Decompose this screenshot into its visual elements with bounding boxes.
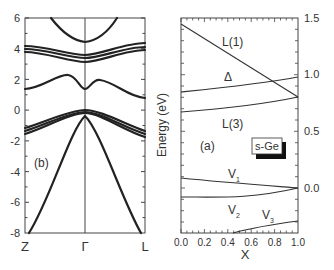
label-l1: L(1) — [222, 35, 243, 49]
label-v1: V 1 — [228, 167, 240, 183]
tick-label: 0.0 — [304, 182, 319, 194]
label-v3: V 3 — [262, 208, 274, 224]
tick-label: -6 — [10, 196, 20, 208]
sge-label-box: s-Ge — [252, 138, 286, 159]
svg-text:V: V — [262, 208, 270, 222]
line-v2 — [181, 188, 298, 197]
label-v2: V 2 — [228, 203, 240, 219]
tick-label: -2 — [10, 135, 20, 147]
panel-b-y-tick-labels: 6 4 2 0 -2 -4 -6 -8 — [10, 12, 20, 239]
label-l3: L(3) — [222, 117, 243, 131]
tick-label: -4 — [10, 166, 20, 178]
line-l3 — [181, 97, 298, 112]
tick-label: 1.0 — [304, 68, 319, 80]
tick-label: -8 — [10, 227, 20, 239]
line-delta — [181, 77, 298, 92]
tick-label: 0.8 — [268, 237, 282, 248]
sge-label: s-Ge — [255, 140, 279, 152]
tick-label: 1.0 — [291, 237, 305, 248]
x-label-z: Z — [21, 239, 29, 254]
tick-label: 0.5 — [304, 125, 319, 137]
y-axis-label: Energy (eV) — [155, 93, 169, 157]
panel-b: 6 4 2 0 -2 -4 -6 -8 Z Γ L (b) — [10, 12, 148, 254]
panel-a-y-tick-labels: 1.5 1.0 0.5 0.0 — [304, 12, 319, 194]
svg-text:3: 3 — [270, 217, 274, 224]
x-label-gamma: Γ — [81, 239, 88, 254]
tick-label: 0 — [14, 104, 20, 116]
svg-text:V: V — [228, 203, 236, 217]
svg-text:2: 2 — [236, 212, 240, 219]
tick-label: 2 — [14, 74, 20, 86]
x-axis-label: X — [241, 247, 250, 262]
tick-label: 0.0 — [174, 237, 188, 248]
tick-label: 1.5 — [304, 12, 319, 24]
tick-label: 0.2 — [197, 237, 211, 248]
label-delta: Δ — [224, 70, 232, 84]
panel-a-label: (a) — [200, 139, 215, 153]
panel-b-label: (b) — [34, 156, 49, 170]
x-label-l: L — [141, 239, 148, 254]
tick-label: 6 — [14, 12, 20, 24]
line-v3 — [233, 221, 298, 233]
band-structure-figure: 6 4 2 0 -2 -4 -6 -8 Z Γ L (b) — [0, 0, 334, 270]
panel-a: 1.5 1.0 0.5 0.0 0.0 0.2 0.4 0.6 0.8 1.0 … — [174, 12, 319, 262]
band-curve — [51, 18, 117, 42]
tick-label: 0.4 — [221, 237, 235, 248]
svg-text:1: 1 — [236, 176, 240, 183]
tick-label: 4 — [14, 43, 20, 55]
svg-text:V: V — [228, 167, 236, 181]
